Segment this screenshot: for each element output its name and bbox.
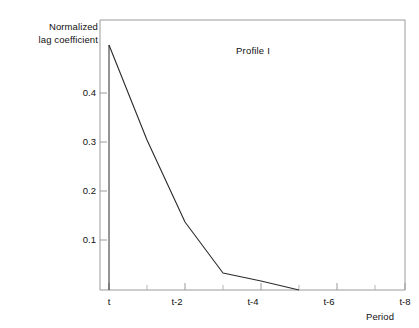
series-line-profile-i [109, 45, 299, 290]
x-axis-major-ticks [109, 283, 405, 290]
plot-frame [100, 20, 405, 290]
chart-figure: Normalizedlag coefficient Profile I Peri… [0, 0, 419, 328]
chart-plot-area [0, 0, 419, 328]
y-axis-ticks [100, 93, 107, 240]
